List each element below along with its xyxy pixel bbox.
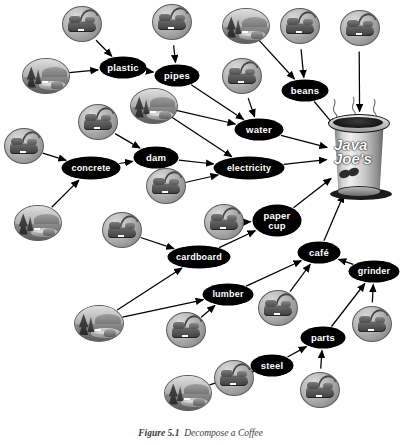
- handshake-wrench-icon: [258, 290, 298, 326]
- handshake-wrench-icon: [102, 212, 142, 248]
- resource-photo-icon: [14, 205, 62, 241]
- handshake-wrench-icon: [4, 128, 44, 164]
- resource-photo-icon: [164, 375, 212, 411]
- figure-caption: Figure 5.1 Decompose a Coffee: [0, 428, 401, 438]
- process-node-cafe[interactable]: café: [298, 242, 340, 263]
- arrow-plastic-to-pipes: [146, 71, 153, 72]
- resource-photo-icon: [222, 8, 270, 44]
- resource-photo-icon: [22, 58, 70, 94]
- handshake-wrench-icon: [352, 306, 392, 342]
- resource-icon-ore[interactable]: [164, 375, 210, 419]
- cup-liquid: [333, 117, 383, 128]
- arrow-lumber-to-cafe: [246, 261, 301, 286]
- work-icon-work-dam[interactable]: [78, 104, 116, 148]
- process-node-label: electricity: [225, 164, 273, 173]
- handshake-wrench-icon: [214, 360, 254, 396]
- arrow-electricity-to-coffee-cup: [284, 160, 327, 165]
- arrow-concrete-to-dam: [119, 161, 133, 163]
- arrow-river-to-water: [176, 110, 235, 124]
- process-node-label: lumber: [210, 290, 245, 299]
- work-icon-work-pipes[interactable]: [152, 4, 190, 48]
- process-node-label: steel: [259, 361, 286, 371]
- work-icon-work-beans-left[interactable]: [280, 8, 318, 52]
- handshake-wrench-icon: [166, 312, 206, 348]
- arrow-work-parts-to-parts: [321, 351, 322, 369]
- process-node-water[interactable]: water: [235, 119, 283, 140]
- resource-icon-river[interactable]: [130, 88, 176, 132]
- work-icon-work-beans-right[interactable]: [340, 10, 378, 54]
- process-node-concrete[interactable]: concrete: [62, 157, 120, 179]
- handshake-wrench-icon: [340, 10, 380, 46]
- process-node-label: dam: [144, 153, 168, 163]
- work-icon-work-water[interactable]: [222, 58, 260, 102]
- process-node-label: grinder: [356, 267, 392, 276]
- handshake-wrench-icon: [152, 4, 192, 40]
- arrow-work-beans-left-to-beans: [301, 49, 304, 77]
- handshake-wrench-icon: [78, 104, 118, 140]
- arrow-work-dam-to-dam: [115, 134, 140, 149]
- process-node-pipes[interactable]: pipes: [155, 65, 199, 86]
- process-node-paper-cup[interactable]: papercup: [253, 205, 301, 236]
- figure-canvas: plasticpipesbeanswaterdamconcreteelectri…: [0, 0, 401, 445]
- arrow-grinder-to-cafe: [339, 259, 354, 264]
- figure-caption-text: Decompose a Coffee: [184, 428, 263, 438]
- handshake-wrench-icon: [280, 8, 320, 44]
- coffee-cup: Java Joe's: [326, 110, 394, 202]
- resource-photo-icon: [130, 88, 178, 124]
- work-icon-work-steel[interactable]: [214, 360, 252, 404]
- process-node-steel[interactable]: steel: [251, 355, 293, 376]
- process-node-grinder[interactable]: grinder: [349, 261, 399, 282]
- arrow-gravel-to-concrete: [52, 180, 79, 207]
- process-node-parts[interactable]: parts: [301, 327, 345, 348]
- process-node-label: concrete: [69, 164, 112, 173]
- arrow-water-to-coffee-cup: [281, 135, 327, 147]
- handshake-wrench-icon: [300, 372, 340, 408]
- arrow-trees-to-cardboard: [117, 268, 182, 310]
- work-icon-work-cafe[interactable]: [258, 290, 296, 334]
- handshake-wrench-icon: [62, 6, 102, 42]
- cup-brand: Java Joe's: [334, 138, 380, 167]
- resource-icon-land[interactable]: [222, 8, 268, 52]
- cup-base: [337, 186, 381, 197]
- work-icon-work-parts[interactable]: [300, 372, 338, 416]
- arrow-work-cafe-to-cafe: [290, 264, 310, 291]
- cup-bean-graphic: [339, 168, 361, 179]
- process-node-label: beans: [289, 86, 321, 96]
- work-icon-work-plastic[interactable]: [62, 6, 100, 50]
- figure-caption-label: Figure 5.1: [138, 428, 179, 438]
- process-node-dam[interactable]: dam: [134, 147, 178, 168]
- work-icon-work-electricity[interactable]: [146, 168, 184, 212]
- arrow-work-grinder-to-grinder: [372, 285, 373, 303]
- process-node-plastic[interactable]: plastic: [100, 57, 146, 78]
- process-node-label: water: [244, 125, 274, 135]
- arrow-oil-to-plastic: [69, 70, 98, 73]
- work-icon-work-cardboard[interactable]: [102, 212, 140, 256]
- arrow-steel-to-parts: [288, 347, 307, 357]
- resource-photo-icon: [74, 305, 124, 342]
- process-node-label: cardboard: [174, 253, 224, 262]
- arrow-dam-to-electricity: [179, 160, 214, 164]
- work-icon-work-grinder[interactable]: [352, 306, 390, 350]
- process-node-label: papercup: [262, 211, 293, 230]
- process-node-lumber[interactable]: lumber: [203, 284, 253, 305]
- arrow-work-concrete-to-concrete: [43, 153, 66, 160]
- resource-icon-oil[interactable]: [22, 58, 68, 102]
- cup-brand-line2: Joe's: [334, 152, 380, 166]
- handshake-wrench-icon: [146, 168, 186, 204]
- arrow-work-cardboard-to-cardboard: [141, 238, 174, 249]
- resource-icon-trees[interactable]: [74, 305, 122, 350]
- process-node-label: café: [307, 248, 331, 258]
- work-icon-work-papercup[interactable]: [204, 204, 242, 248]
- work-icon-work-concrete[interactable]: [4, 128, 42, 172]
- process-node-cardboard[interactable]: cardboard: [168, 246, 230, 268]
- handshake-wrench-icon: [222, 58, 262, 94]
- process-node-label: plastic: [105, 63, 141, 73]
- arrow-work-electricity-to-electricity: [185, 175, 218, 183]
- process-node-label: parts: [309, 333, 337, 343]
- process-node-electricity[interactable]: electricity: [214, 157, 284, 179]
- arrow-river-to-electricity: [172, 117, 232, 157]
- resource-icon-gravel[interactable]: [14, 205, 60, 249]
- process-node-label: pipes: [162, 71, 192, 81]
- work-icon-work-lumber[interactable]: [166, 312, 204, 356]
- handshake-wrench-icon: [204, 204, 244, 240]
